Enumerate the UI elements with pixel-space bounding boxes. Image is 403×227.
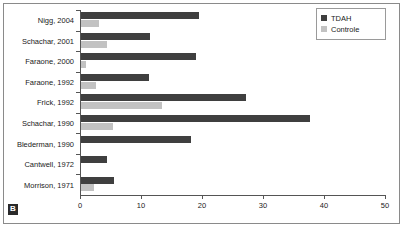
legend-entry-tdah: TDAH — [321, 13, 381, 23]
bar-controle — [81, 20, 99, 27]
y-axis-tick — [76, 154, 80, 155]
chart-legend: TDAH Controle — [316, 8, 386, 40]
x-axis-tick — [385, 195, 386, 199]
bar-controle — [81, 123, 113, 130]
bar-tdah — [81, 115, 310, 122]
bar-tdah — [81, 136, 191, 143]
bar-controle — [81, 82, 96, 89]
legend-swatch-controle — [321, 26, 327, 32]
bar-group: Blederman, 1990 — [80, 133, 385, 154]
x-axis-tick — [141, 195, 142, 199]
panel-letter-label: B — [8, 204, 18, 215]
category-label: Faraone, 2000 — [0, 57, 74, 66]
category-label: Cantwell, 1972 — [0, 160, 74, 169]
y-axis-tick — [76, 31, 80, 32]
category-label: Schachar, 1990 — [0, 119, 74, 128]
bar-tdah — [81, 94, 246, 101]
category-label: Faraone, 1992 — [0, 77, 74, 86]
x-axis-tick-label: 20 — [198, 201, 206, 210]
y-axis-tick — [76, 133, 80, 134]
bar-group: Morrison, 1971 — [80, 174, 385, 195]
x-axis-tick — [263, 195, 264, 199]
bar-tdah — [81, 177, 114, 184]
x-axis-tick-label: 30 — [259, 201, 267, 210]
legend-label-controle: Controle — [331, 25, 359, 34]
bar-group: Cantwell, 1972 — [80, 154, 385, 175]
bar-tdah — [81, 33, 150, 40]
category-label: Frick, 1992 — [0, 98, 74, 107]
y-axis-tick — [76, 10, 80, 11]
y-axis-tick — [76, 92, 80, 93]
x-axis-tick-label: 0 — [78, 201, 82, 210]
category-label: Morrison, 1971 — [0, 180, 74, 189]
bar-controle — [81, 184, 94, 191]
bar-group: Faraone, 1992 — [80, 72, 385, 93]
x-axis-tick-label: 10 — [137, 201, 145, 210]
category-label: Nigg, 2004 — [0, 16, 74, 25]
bar-tdah — [81, 74, 149, 81]
y-axis-tick — [76, 72, 80, 73]
legend-swatch-tdah — [321, 15, 327, 21]
category-label: Schachar, 2001 — [0, 36, 74, 45]
bar-controle — [81, 61, 86, 68]
bar-tdah — [81, 156, 107, 163]
bar-tdah — [81, 12, 199, 19]
bar-group: Faraone, 2000 — [80, 51, 385, 72]
y-axis-tick — [76, 174, 80, 175]
y-axis-tick — [76, 51, 80, 52]
legend-entry-controle: Controle — [321, 24, 381, 34]
bar-tdah — [81, 53, 196, 60]
x-axis-tick — [80, 195, 81, 199]
category-label: Blederman, 1990 — [0, 139, 74, 148]
figure-panel-b: 01020304050Nigg, 2004Schachar, 2001Farao… — [0, 0, 403, 227]
x-axis-tick-label: 50 — [381, 201, 389, 210]
bar-controle — [81, 102, 162, 109]
bar-controle — [81, 41, 107, 48]
x-axis-tick — [324, 195, 325, 199]
x-axis-tick-label: 40 — [320, 201, 328, 210]
bar-group: Schachar, 1990 — [80, 113, 385, 134]
bar-group: Frick, 1992 — [80, 92, 385, 113]
x-axis-tick — [202, 195, 203, 199]
x-axis-line — [80, 195, 386, 196]
legend-label-tdah: TDAH — [331, 14, 351, 23]
y-axis-tick — [76, 113, 80, 114]
